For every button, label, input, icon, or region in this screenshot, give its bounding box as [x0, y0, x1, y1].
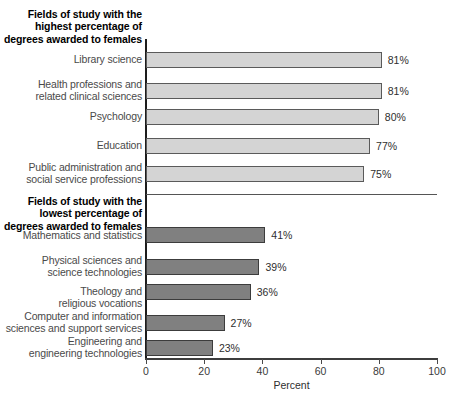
category-label-mathematics-statistics: Mathematics and statistics [0, 229, 144, 241]
x-tick-label-0: 0 [143, 365, 149, 377]
x-tick-0 [146, 359, 147, 364]
bar-value-computer-information-sciences: 27% [231, 315, 252, 331]
category-label-line: Library science [0, 53, 142, 65]
bar-psychology [146, 109, 379, 125]
x-tick-label-100: 100 [428, 365, 446, 377]
category-label-line: engineering technologies [0, 347, 142, 359]
category-label-line: social service professions [0, 173, 142, 185]
group-header-highest-line3: degrees awarded to females [0, 33, 142, 45]
group-header-lowest-line1: Fields of study with the [0, 195, 142, 207]
bar-value-theology: 36% [257, 284, 278, 300]
bar-value-health-professions: 81% [388, 83, 409, 99]
group-header-lowest-line2: lowest percentage of [0, 207, 142, 219]
category-label-line: Public administration and [0, 161, 142, 173]
group-header-lowest: Fields of study with the lowest percenta… [0, 195, 144, 232]
bar-health-professions [146, 83, 382, 99]
category-label-line: Physical sciences and [0, 254, 142, 266]
category-label-line: Health professions and [0, 78, 142, 90]
category-label-engineering: Engineering and engineering technologies [0, 335, 144, 359]
group-header-highest: Fields of study with the highest percent… [0, 8, 144, 45]
bar-public-administration [146, 166, 364, 182]
group-header-highest-line2: highest percentage of [0, 20, 142, 32]
x-axis-title: Percent [145, 379, 438, 391]
category-label-line: religious vocations [0, 297, 142, 309]
bar-value-library-science: 81% [388, 52, 409, 68]
bar-value-physical-sciences: 39% [265, 259, 286, 275]
bar-education [146, 138, 370, 154]
category-label-line: Engineering and [0, 335, 142, 347]
category-label-line: Mathematics and statistics [0, 229, 142, 241]
category-label-theology: Theology and religious vocations [0, 285, 144, 309]
category-label-physical-sciences: Physical sciences and science technologi… [0, 254, 144, 278]
group-header-highest-line1: Fields of study with the [0, 8, 142, 20]
bar-engineering [146, 340, 213, 356]
bar-chart: Fields of study with the highest percent… [0, 0, 460, 396]
category-label-line: related clinical sciences [0, 90, 142, 102]
category-label-psychology: Psychology [0, 110, 144, 122]
category-label-line: Education [0, 139, 142, 151]
x-tick-40 [262, 359, 263, 364]
x-tick-label-20: 20 [198, 365, 210, 377]
group-separator-line [146, 194, 437, 195]
bar-value-public-administration: 75% [370, 166, 391, 182]
bar-theology [146, 284, 251, 300]
x-tick-label-80: 80 [373, 365, 385, 377]
category-label-public-administration: Public administration and social service… [0, 161, 144, 185]
bar-physical-sciences [146, 259, 259, 275]
x-tick-20 [204, 359, 205, 364]
category-label-computer-information-sciences: Computer and information sciences and su… [0, 310, 144, 334]
category-label-health-professions: Health professions and related clinical … [0, 78, 144, 102]
category-label-line: Theology and [0, 285, 142, 297]
category-label-line: science technologies [0, 266, 142, 278]
category-label-line: Psychology [0, 110, 142, 122]
bar-computer-information-sciences [146, 315, 225, 331]
bar-value-mathematics-statistics: 41% [271, 227, 292, 243]
bar-value-education: 77% [376, 138, 397, 154]
bar-value-psychology: 80% [385, 109, 406, 125]
category-label-library-science: Library science [0, 53, 144, 65]
x-tick-label-60: 60 [315, 365, 327, 377]
x-tick-100 [437, 359, 438, 364]
bar-value-engineering: 23% [219, 340, 240, 356]
category-label-education: Education [0, 139, 144, 151]
x-tick-60 [321, 359, 322, 364]
x-tick-80 [379, 359, 380, 364]
category-label-line: sciences and support services [0, 322, 142, 334]
x-axis-line [145, 358, 438, 360]
category-label-line: Computer and information [0, 310, 142, 322]
bar-mathematics-statistics [146, 227, 265, 243]
x-tick-label-40: 40 [257, 365, 269, 377]
bar-library-science [146, 52, 382, 68]
